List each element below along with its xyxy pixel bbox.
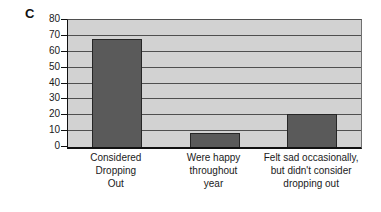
bar [92,39,142,147]
y-tick-label: 40 [34,78,60,88]
y-tick-label: 50 [34,62,60,72]
y-tick-label: 10 [34,125,60,135]
y-tick-label: 0 [34,141,60,151]
y-axis-tick [61,35,67,36]
bar [287,114,337,147]
y-axis-tick [61,146,67,147]
y-axis-tick [61,114,67,115]
y-tick-label: 80 [34,14,60,24]
y-tick-label: 70 [34,30,60,40]
x-category-label: Felt sad occasionally, but didn't consid… [250,151,372,190]
bar [190,133,240,147]
y-axis-tick [61,98,67,99]
y-tick-label: 30 [34,93,60,103]
y-axis-tick [61,19,67,20]
bar-chart-figure: C 01020304050607080 Considered Dropping … [0,0,381,212]
y-axis-tick [61,67,67,68]
y-axis-tick [61,130,67,131]
plot-area [67,19,362,149]
y-tick-label: 60 [34,46,60,56]
gridline [68,35,361,36]
y-axis-tick [61,51,67,52]
y-axis-tick [61,83,67,84]
panel-label: C [25,6,34,21]
y-tick-label: 20 [34,109,60,119]
